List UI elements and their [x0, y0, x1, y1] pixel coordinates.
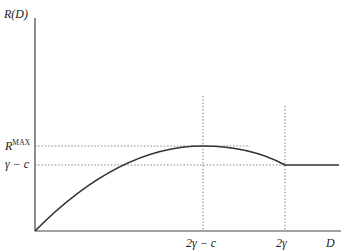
rmax-superscript: MAX [12, 138, 30, 147]
chart-canvas [0, 0, 345, 252]
x-axis-label: D [326, 237, 335, 249]
rmax-label: RMAX [5, 139, 30, 152]
y-axis-label: R(D) [4, 8, 28, 20]
gamma-minus-c-label: γ − c [5, 158, 29, 170]
x-tick-two-gamma: 2γ [276, 237, 287, 249]
x-tick-two-gamma-minus-c: 2γ − c [186, 237, 216, 249]
r-of-d-curve [35, 146, 339, 231]
